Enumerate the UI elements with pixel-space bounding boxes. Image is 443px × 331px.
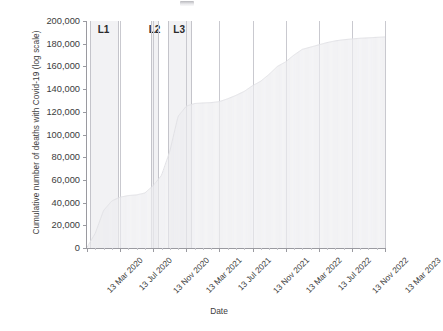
x-axis-minor-tick: [277, 248, 278, 250]
x-axis-minor-tick: [195, 248, 196, 250]
x-axis-minor-tick: [335, 248, 336, 250]
x-axis-minor-tick: [377, 248, 378, 250]
x-axis-minor-tick: [368, 248, 369, 250]
x-axis-minor-tick: [137, 248, 138, 250]
y-axis-tick-label: 40,000: [52, 198, 80, 208]
x-axis-minor-tick: [294, 248, 295, 250]
x-axis-minor-tick: [162, 248, 163, 250]
x-axis-minor-tick: [203, 248, 204, 250]
cropped-title-remnant: [180, 1, 194, 6]
y-axis-tick-label: 0: [75, 243, 80, 253]
y-axis-tick-label: 60,000: [52, 175, 80, 185]
plot-area: L1L2L3 020,00040,00060,00080,000100,0001…: [87, 21, 385, 248]
x-axis-tick: [186, 248, 187, 252]
x-axis-tick: [153, 248, 154, 252]
x-axis-minor-tick: [311, 248, 312, 250]
y-axis-tick-label: 100,000: [46, 130, 80, 140]
y-axis-tick: [83, 112, 87, 113]
x-axis-minor-tick: [236, 248, 237, 250]
y-axis-tick: [83, 66, 87, 67]
x-axis-tick: [319, 248, 320, 252]
y-axis-tick: [83, 89, 87, 90]
y-axis-tick: [83, 21, 87, 22]
x-axis-title: Date: [0, 306, 408, 316]
y-axis-tick-label: 120,000: [46, 107, 80, 117]
x-axis-minor-tick: [327, 248, 328, 250]
x-axis-minor-tick: [104, 248, 105, 250]
x-axis-minor-tick: [128, 248, 129, 250]
y-axis-tick: [83, 157, 87, 158]
y-axis-tick-label: 180,000: [46, 39, 80, 49]
x-axis-tick: [352, 248, 353, 252]
x-axis-minor-tick: [211, 248, 212, 250]
x-axis-minor-tick: [302, 248, 303, 250]
x-axis-tick-label: 13 Mar 2020: [105, 255, 145, 295]
y-axis-tick: [83, 203, 87, 204]
x-axis-tick: [286, 248, 287, 252]
x-axis-minor-tick: [228, 248, 229, 250]
y-axis-tick: [83, 135, 87, 136]
x-axis-minor-tick: [112, 248, 113, 250]
x-axis-minor-tick: [170, 248, 171, 250]
x-axis-minor-tick: [269, 248, 270, 250]
y-axis-tick-label: 80,000: [52, 152, 80, 162]
y-axis-tick: [83, 225, 87, 226]
x-axis-minor-tick: [344, 248, 345, 250]
x-axis-tick: [87, 248, 88, 252]
x-axis-minor-tick: [145, 248, 146, 250]
x-axis-minor-tick: [261, 248, 262, 250]
x-axis-minor-tick: [244, 248, 245, 250]
y-axis-tick-label: 20,000: [52, 220, 80, 230]
x-axis-minor-tick: [360, 248, 361, 250]
y-axis-tick-label: 200,000: [46, 16, 80, 26]
x-axis-minor-tick: [178, 248, 179, 250]
x-axis-tick: [385, 248, 386, 252]
y-axis-tick-label: 160,000: [46, 61, 80, 71]
y-axis-title: Cumulative number of deaths with Covid-1…: [32, 18, 41, 248]
y-axis-tick-label: 140,000: [46, 84, 80, 94]
x-axis-tick: [253, 248, 254, 252]
y-axis-tick: [83, 180, 87, 181]
y-axis-tick: [83, 44, 87, 45]
cumulative-deaths-area: [87, 21, 385, 248]
x-axis-tick: [120, 248, 121, 252]
x-axis-tick: [219, 248, 220, 252]
gridline: [385, 21, 386, 248]
x-axis-minor-tick: [95, 248, 96, 250]
